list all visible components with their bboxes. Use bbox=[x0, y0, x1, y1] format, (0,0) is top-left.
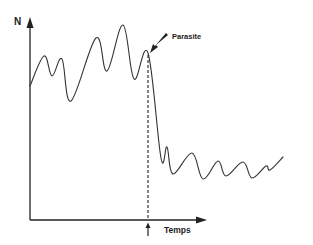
y-axis-label: N bbox=[14, 16, 21, 27]
event-marker-arrow-icon bbox=[146, 223, 151, 229]
parasite-pointer-arrow-icon bbox=[150, 33, 168, 53]
x-axis-arrow-icon bbox=[196, 217, 207, 224]
parasite-annotation-label: Parasite bbox=[172, 32, 201, 41]
x-axis-label: Temps bbox=[164, 225, 191, 235]
y-axis-arrow-icon bbox=[27, 17, 34, 28]
chart: N Temps Parasite bbox=[0, 0, 313, 245]
